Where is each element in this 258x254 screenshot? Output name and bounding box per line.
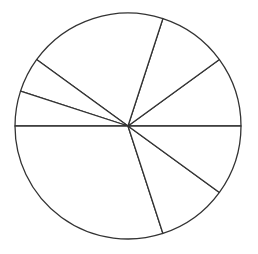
pie-slices — [15, 13, 241, 239]
pie-chart — [0, 0, 258, 254]
